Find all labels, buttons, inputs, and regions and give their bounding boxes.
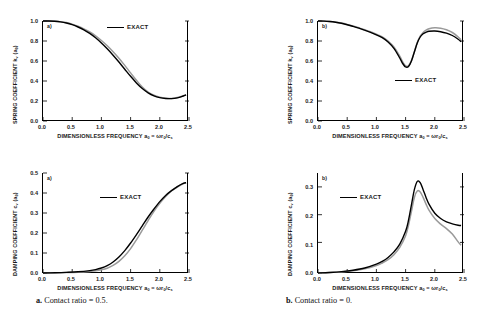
panel-letter-b: b): [322, 175, 327, 181]
x-tick-label: 2.5: [453, 124, 473, 130]
y-tick-label: 0.1: [18, 250, 38, 256]
figure-four-panel-plots: SPRING COEFFICIENT kv (a0) 1.0 0.8 0.6 0…: [0, 0, 486, 320]
x-tick-label: 1.5: [120, 276, 140, 282]
legend-line-icon: [340, 197, 357, 198]
panel-damping-contact-0: DAMPING COEFFICIENT cv (a0) 0.3 0.2 0.1 …: [243, 158, 486, 302]
panel-letter-a: a): [47, 23, 52, 29]
x-tick-label: 1.0: [365, 124, 385, 130]
panel-letter-a: a): [47, 175, 52, 181]
y-tick-label: 0.8: [293, 38, 313, 44]
caption-b: b. Contact ratio = 0.: [286, 296, 352, 305]
legend-damping-b: EXACT: [340, 194, 381, 200]
y-tick-label: 0.6: [293, 58, 313, 64]
y-tick-label: 0.2: [18, 98, 38, 104]
x-tick-label: 0.5: [61, 124, 81, 130]
tick-marks: [43, 173, 189, 273]
caption-a: a. Contact ratio = 0.5.: [36, 296, 108, 305]
x-tick-label: 0.0: [307, 124, 327, 130]
plot-area-damping-a: a) EXACT: [42, 173, 188, 273]
caption-b-marker: b.: [286, 296, 293, 305]
y-tick-label: 0.3: [293, 184, 313, 190]
curves-spring-b: [318, 21, 464, 121]
tick-marks: [43, 21, 189, 121]
x-tick-label: 0.5: [336, 124, 356, 130]
curves-damping-a: [43, 173, 189, 273]
y-tick-label: 0.8: [18, 38, 38, 44]
x-axis-label-spring-b: DIMENSIONLESS FREQUENCY a0 = ωr0/cs: [297, 133, 483, 140]
panel-spring-contact-0: SPRING COEFFICIENT kv (a0) 1.0 0.8 0.6 0…: [243, 4, 486, 148]
legend-damping-a: EXACT: [100, 194, 141, 200]
x-tick-label: 1.5: [395, 124, 415, 130]
panel-spring-contact-0p5: SPRING COEFFICIENT kv (a0) 1.0 0.8 0.6 0…: [0, 4, 243, 148]
x-tick-label: 0.0: [32, 124, 52, 130]
legend-spring-a: EXACT: [107, 24, 148, 30]
y-tick-label: 0.5: [18, 170, 38, 176]
panel-damping-contact-0p5: DAMPING COEFFICIENT cv (a0) 0.5 0.4 0.3 …: [0, 158, 243, 302]
y-tick-label: 0.2: [18, 230, 38, 236]
x-tick-label: 1.5: [120, 124, 140, 130]
x-tick-label: 1.0: [365, 276, 385, 282]
legend-line-icon: [395, 80, 412, 81]
x-tick-label: 2.0: [149, 276, 169, 282]
x-tick-label: 0.5: [61, 276, 81, 282]
y-tick-label: 0.4: [293, 78, 313, 84]
x-tick-label: 1.0: [90, 276, 110, 282]
y-tick-label: 0.1: [293, 242, 313, 248]
legend-line-icon: [107, 27, 124, 28]
legend-line-icon: [100, 197, 117, 198]
plot-area-spring-a: a) EXACT: [42, 21, 188, 121]
y-tick-label: 0.4: [18, 190, 38, 196]
x-tick-label: 1.5: [395, 276, 415, 282]
x-axis-label-damping-b: DIMENSIONLESS FREQUENCY a0 = ωr0/cs: [297, 285, 483, 292]
y-tick-label: 1.0: [18, 18, 38, 24]
x-tick-label: 2.0: [424, 276, 444, 282]
caption-a-marker: a.: [36, 296, 42, 305]
plot-area-damping-b: b) EXACT: [317, 173, 463, 273]
legend-label: EXACT: [127, 24, 148, 30]
x-tick-label: 2.0: [149, 124, 169, 130]
y-tick-label: 0.3: [18, 210, 38, 216]
legend-label: EXACT: [120, 194, 141, 200]
panel-letter-b: b): [322, 23, 327, 29]
caption-b-text: Contact ratio = 0.: [295, 296, 352, 305]
caption-a-text: Contact ratio = 0.5.: [44, 296, 108, 305]
curves-spring-a: [43, 21, 189, 121]
x-tick-label: 1.0: [90, 124, 110, 130]
x-axis-label-damping-a: DIMENSIONLESS FREQUENCY a0 = ωr0/cs: [22, 285, 208, 292]
x-tick-label: 2.5: [178, 124, 198, 130]
plot-area-spring-b: b) EXACT: [317, 21, 463, 121]
y-tick-label: 0.4: [18, 78, 38, 84]
y-axis-label-damping-b: DAMPING COEFFICIENT cv (a0): [287, 192, 294, 276]
x-tick-label: 2.0: [424, 124, 444, 130]
legend-label: EXACT: [415, 77, 436, 83]
y-tick-label: 0.2: [293, 98, 313, 104]
curves-damping-b: [318, 173, 464, 273]
x-axis-label-spring-a: DIMENSIONLESS FREQUENCY a0 = ωr0/cs: [22, 133, 208, 140]
y-tick-label: 0.6: [18, 58, 38, 64]
x-tick-label: 0.5: [336, 276, 356, 282]
legend-label: EXACT: [360, 194, 381, 200]
legend-spring-b: EXACT: [395, 77, 436, 83]
x-tick-label: 0.0: [307, 276, 327, 282]
y-tick-label: 0.2: [293, 213, 313, 219]
x-tick-label: 2.5: [178, 276, 198, 282]
y-tick-label: 1.0: [293, 18, 313, 24]
x-tick-label: 0.0: [32, 276, 52, 282]
tick-marks: [318, 21, 464, 121]
x-tick-label: 2.5: [453, 276, 473, 282]
